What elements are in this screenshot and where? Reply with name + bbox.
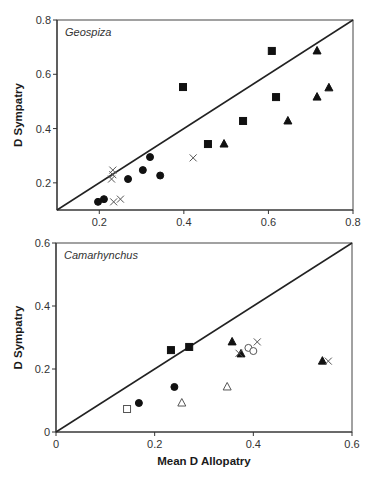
filled-circle-marker — [135, 400, 142, 407]
filled-triangle-marker — [284, 116, 292, 124]
filled-square-marker — [180, 84, 187, 91]
geospiza-panel: 0.20.40.60.80.20.40.60.8GeospizaD Sympat… — [12, 14, 361, 228]
panel-label: Camarhynchus — [64, 249, 138, 261]
filled-circle-marker — [139, 167, 146, 174]
y-tick-label: 0 — [44, 426, 50, 438]
y-tick-label: 0.6 — [36, 68, 51, 80]
filled-square-marker — [167, 347, 174, 354]
filled-square-marker — [268, 47, 275, 54]
scatter-figure: 0.20.40.60.80.20.40.60.8GeospizaD Sympat… — [0, 0, 378, 482]
y-axis-title: D Sympatry — [12, 82, 24, 147]
x-tick-label: 0.2 — [92, 216, 107, 228]
y-tick-label: 0.4 — [36, 123, 51, 135]
x-tick-label: 0.4 — [246, 438, 261, 450]
open-square-marker — [124, 406, 131, 413]
x-tick-label: 0.6 — [344, 438, 359, 450]
panel-label: Geospiza — [65, 26, 111, 38]
open-circle-marker — [250, 348, 257, 355]
y-tick-label: 0.2 — [35, 363, 50, 375]
filled-triangle-marker — [313, 93, 321, 101]
filled-circle-marker — [125, 176, 132, 183]
cross-marker — [254, 338, 261, 345]
filled-circle-marker — [147, 154, 154, 161]
cross-marker — [110, 198, 117, 205]
filled-triangle-marker — [228, 337, 236, 345]
filled-square-marker — [186, 343, 193, 350]
filled-square-marker — [273, 94, 280, 101]
open-triangle-marker — [223, 382, 231, 390]
cross-marker — [325, 358, 332, 365]
x-tick-label: 0.6 — [261, 216, 276, 228]
filled-square-marker — [240, 117, 247, 124]
y-tick-label: 0.6 — [35, 237, 50, 249]
x-tick-label: 0.2 — [147, 438, 162, 450]
cross-marker — [117, 196, 124, 203]
filled-square-marker — [204, 141, 211, 148]
filled-triangle-marker — [325, 83, 333, 91]
y-tick-label: 0.8 — [36, 14, 51, 26]
filled-circle-marker — [157, 172, 164, 179]
filled-circle-marker — [95, 198, 102, 205]
filled-triangle-marker — [313, 46, 321, 54]
y-tick-label: 0.2 — [36, 177, 51, 189]
x-axis-title: Mean D Allopatry — [157, 455, 251, 467]
camarhynchus-panel: 00.20.40.600.20.40.6CamarhynchusD Sympat… — [12, 237, 360, 467]
filled-circle-marker — [171, 383, 178, 390]
identity-line — [56, 243, 352, 432]
x-tick-label: 0.4 — [176, 216, 191, 228]
x-tick-label: 0.8 — [345, 216, 360, 228]
y-axis-title: D Sympatry — [12, 305, 24, 370]
filled-triangle-marker — [220, 140, 228, 148]
x-tick-label: 0 — [53, 438, 59, 450]
open-triangle-marker — [178, 399, 186, 407]
y-tick-label: 0.4 — [35, 300, 50, 312]
cross-marker — [190, 154, 197, 161]
identity-line — [57, 20, 353, 210]
